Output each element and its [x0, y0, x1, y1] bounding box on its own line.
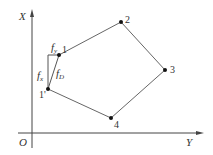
x-axis-label: X — [19, 11, 26, 22]
y-axis-label: Y — [186, 137, 192, 148]
point-1 — [57, 53, 61, 57]
point-2-label: 2 — [125, 15, 130, 25]
polygon-force-diagram: X Y O 1 2 3 4 1' fy fx fD — [0, 0, 213, 155]
point-2 — [119, 20, 123, 24]
origin-label: O — [19, 137, 27, 148]
y-axis-arrow-icon — [196, 131, 204, 135]
fx-label: fx — [37, 70, 43, 83]
x-axis-arrow-icon — [30, 9, 34, 17]
point-3-label: 3 — [170, 65, 175, 75]
diagram-canvas — [0, 0, 213, 155]
point-1-label: 1 — [62, 45, 67, 55]
point-4-label: 4 — [114, 120, 119, 130]
point-4 — [109, 116, 113, 120]
point-1-prime-label: 1' — [39, 90, 46, 100]
polygon-path — [48, 22, 165, 118]
fy-label: fy — [51, 42, 57, 55]
point-1-prime — [46, 87, 50, 91]
point-3 — [163, 68, 167, 72]
fd-label: fD — [56, 68, 64, 81]
